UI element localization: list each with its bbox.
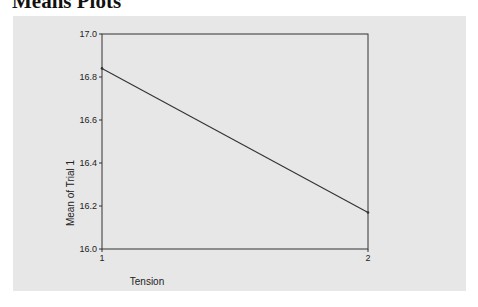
y-tick-label: 16.2: [79, 201, 97, 211]
y-tick-label: 16.8: [79, 72, 97, 82]
series-line: [102, 68, 368, 212]
x-axis-label: Tension: [130, 276, 164, 287]
plot-frame: [102, 34, 368, 249]
y-tick-label: 17.0: [79, 29, 97, 39]
y-tick-label: 16.0: [79, 244, 97, 254]
y-tick-label: 16.6: [79, 115, 97, 125]
data-point: [367, 211, 370, 214]
x-tick-label: 2: [365, 253, 370, 263]
x-tick-label: 1: [99, 253, 104, 263]
means-plot-chart: 16.016.216.416.616.817.012TensionMean of…: [0, 0, 478, 307]
y-tick-label: 16.4: [79, 158, 97, 168]
data-point: [101, 67, 104, 70]
y-axis-label: Mean of Trial 1: [65, 159, 76, 226]
